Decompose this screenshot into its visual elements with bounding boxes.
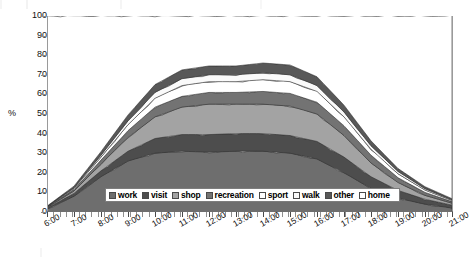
legend-item-recreation[interactable]: recreation [206,190,254,200]
chart-legend: workvisitshoprecreationsportwalkotherhom… [105,188,400,202]
y-axis-tick [41,114,46,115]
y-axis-tick [41,36,46,37]
legend-item-label: recreation [215,190,254,200]
legend-item-other[interactable]: other [325,190,354,200]
legend-item-label: walk [302,190,320,200]
legend-item-visit[interactable]: visit [142,190,167,200]
legend-swatch-icon [109,192,116,199]
plot-frame-left [47,16,48,212]
legend-item-home[interactable]: home [359,190,390,200]
y-axis-tick [41,134,46,135]
y-axis-tick [41,173,46,174]
legend-item-label: shop [181,190,201,200]
legend-item-sport[interactable]: sport [259,190,288,200]
legend-swatch-icon [206,192,213,199]
y-axis-tick [41,75,46,76]
area-series-group [47,16,452,212]
plot-area [47,16,452,212]
legend-item-label: visit [151,190,167,200]
plot-frame-right [452,16,453,212]
legend-swatch-icon [172,192,179,199]
y-axis-tick [41,192,46,193]
legend-item-label: sport [268,190,288,200]
legend-item-label: home [368,190,390,200]
scan-artifact-top [0,0,466,9]
legend-swatch-icon [359,192,366,199]
legend-item-walk[interactable]: walk [293,190,320,200]
legend-item-label: other [334,190,354,200]
legend-swatch-icon [142,192,149,199]
scan-artifact-bottom [0,248,466,257]
y-axis-tick [41,212,46,213]
y-axis-title: % [8,108,16,118]
legend-item-work[interactable]: work [109,190,137,200]
legend-swatch-icon [259,192,266,199]
y-axis-tick [41,94,46,95]
y-axis-tick [41,55,46,56]
y-axis-tick [41,153,46,154]
y-axis-tick [41,16,46,17]
legend-swatch-icon [325,192,332,199]
legend-item-shop[interactable]: shop [172,190,201,200]
legend-item-label: work [118,190,137,200]
legend-swatch-icon [293,192,300,199]
